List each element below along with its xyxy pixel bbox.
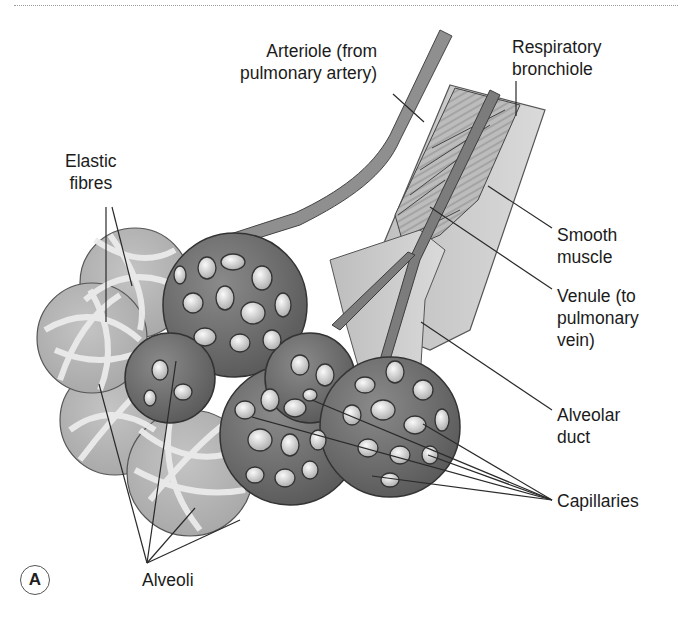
label-respiratory-bronchiole-line2: bronchiole — [512, 58, 601, 80]
label-respiratory-bronchiole: Respiratory bronchiole — [512, 36, 601, 80]
label-arteriole-line1: Arteriole (from — [240, 40, 377, 62]
label-alveoli-line1: Alveoli — [142, 569, 194, 591]
label-elastic-fibres-line2: fibres — [65, 172, 117, 194]
label-venule: Venule (to pulmonary vein) — [557, 285, 639, 351]
label-respiratory-bronchiole-line1: Respiratory — [512, 36, 601, 58]
panel-letter-badge: A — [20, 565, 50, 595]
label-capillaries-line1: Capillaries — [557, 490, 639, 512]
label-capillaries: Capillaries — [557, 490, 639, 512]
label-elastic-fibres-line1: Elastic — [65, 150, 117, 172]
label-venule-line3: vein) — [557, 329, 639, 351]
label-alveoli: Alveoli — [142, 569, 194, 591]
label-alveolar-duct: Alveolar duct — [557, 404, 620, 448]
label-arteriole: Arteriole (from pulmonary artery) — [240, 40, 377, 84]
label-smooth-muscle: Smooth muscle — [557, 224, 617, 268]
label-smooth-muscle-line2: muscle — [557, 246, 617, 268]
label-arteriole-line2: pulmonary artery) — [240, 62, 377, 84]
label-alveolar-duct-line1: Alveolar — [557, 404, 620, 426]
label-venule-line2: pulmonary — [557, 307, 639, 329]
label-smooth-muscle-line1: Smooth — [557, 224, 617, 246]
label-venule-line1: Venule (to — [557, 285, 639, 307]
label-alveolar-duct-line2: duct — [557, 426, 620, 448]
label-elastic-fibres: Elastic fibres — [65, 150, 117, 194]
